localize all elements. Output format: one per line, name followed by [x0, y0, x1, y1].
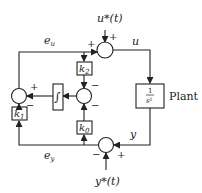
u-ref-label: u*(t): [97, 12, 123, 25]
y-ref-label: y*(t): [94, 175, 120, 188]
plant-denominator: s²: [146, 97, 153, 105]
mid-sum-top-sign: −: [91, 80, 99, 91]
bot-sum-right-sign: +: [117, 149, 125, 160]
bottom-summing-junction: [99, 138, 114, 153]
diagram-svg: u*(t) u eu y ey y*(t) 1 s² Plant ∫ k2 k0…: [0, 0, 202, 193]
bot-sum-left-sign: −: [92, 149, 100, 160]
top-sum-top-sign: +: [109, 31, 117, 42]
top-summing-junction: [97, 42, 113, 58]
u-signal-line: [113, 50, 150, 83]
plant-numerator: 1: [148, 87, 152, 95]
middle-summing-junction: [77, 89, 92, 104]
plant-label: Plant: [169, 90, 199, 103]
top-sum-left-sign: +: [87, 38, 95, 49]
integrator-symbol: ∫: [54, 90, 61, 104]
left-sum-top-sign: +: [30, 81, 38, 92]
e-y-label: ey: [44, 149, 56, 163]
left-summing-junction: [12, 89, 27, 104]
y-label: y: [129, 128, 137, 141]
left-sum-bottom-sign: −: [26, 100, 34, 111]
mid-sum-bottom-sign: −: [91, 100, 99, 111]
u-label: u: [132, 35, 139, 48]
e-u-label: eu: [44, 34, 56, 48]
control-block-diagram: u*(t) u eu y ey y*(t) 1 s² Plant ∫ k2 k0…: [0, 0, 202, 193]
